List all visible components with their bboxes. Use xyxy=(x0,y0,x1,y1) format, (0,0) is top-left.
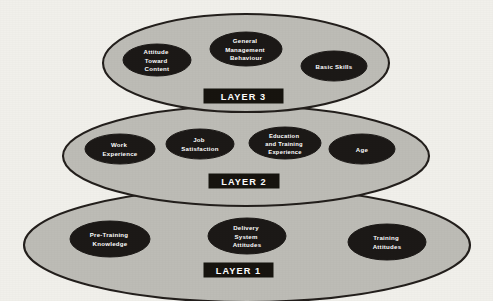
node-basic-skills[interactable]: Basic Skills xyxy=(301,51,367,81)
node-training-attitudes[interactable]: Training Attitudes xyxy=(348,224,426,260)
badge-label: LAYER 3 xyxy=(221,92,267,102)
node-delivery-system-attitudes[interactable]: Delivery System Attitudes xyxy=(208,218,286,254)
layer-badge-1[interactable]: LAYER 1 xyxy=(204,263,273,277)
node-label: Pre-Training Knowledge xyxy=(90,231,131,247)
node-label: Attitude Toward Content xyxy=(144,48,171,72)
node-label: Age xyxy=(356,146,369,153)
layer-badge-3[interactable]: LAYER 3 xyxy=(204,89,283,103)
badge-label: LAYER 2 xyxy=(221,177,267,187)
node-pre-training-knowledge[interactable]: Pre-Training Knowledge xyxy=(70,221,150,257)
layer-badge-2[interactable]: LAYER 2 xyxy=(209,174,279,188)
node-age[interactable]: Age xyxy=(329,134,395,164)
layer-group-2[interactable]: Work Experience Job Satisfaction Educati… xyxy=(63,106,429,206)
badge-label: LAYER 1 xyxy=(216,266,262,276)
node-education-and-training-experience[interactable]: Education and Training Experience xyxy=(249,127,321,159)
layer-group-3[interactable]: Attitude Toward Content General Manageme… xyxy=(103,14,389,112)
node-general-management-behaviour[interactable]: General Management Behaviour xyxy=(210,32,282,66)
diagram-canvas: Pre-Training Knowledge Delivery System A… xyxy=(0,0,493,301)
node-label: Delivery System Attitudes xyxy=(233,224,262,248)
node-work-experience[interactable]: Work Experience xyxy=(85,134,155,164)
node-attitude-toward-content[interactable]: Attitude Toward Content xyxy=(123,44,191,76)
node-label: Training Attitudes xyxy=(373,234,402,250)
node-job-satisfaction[interactable]: Job Satisfaction xyxy=(166,129,234,159)
node-label: Education and Training Experience xyxy=(265,133,304,155)
node-label: Basic Skills xyxy=(316,63,353,70)
